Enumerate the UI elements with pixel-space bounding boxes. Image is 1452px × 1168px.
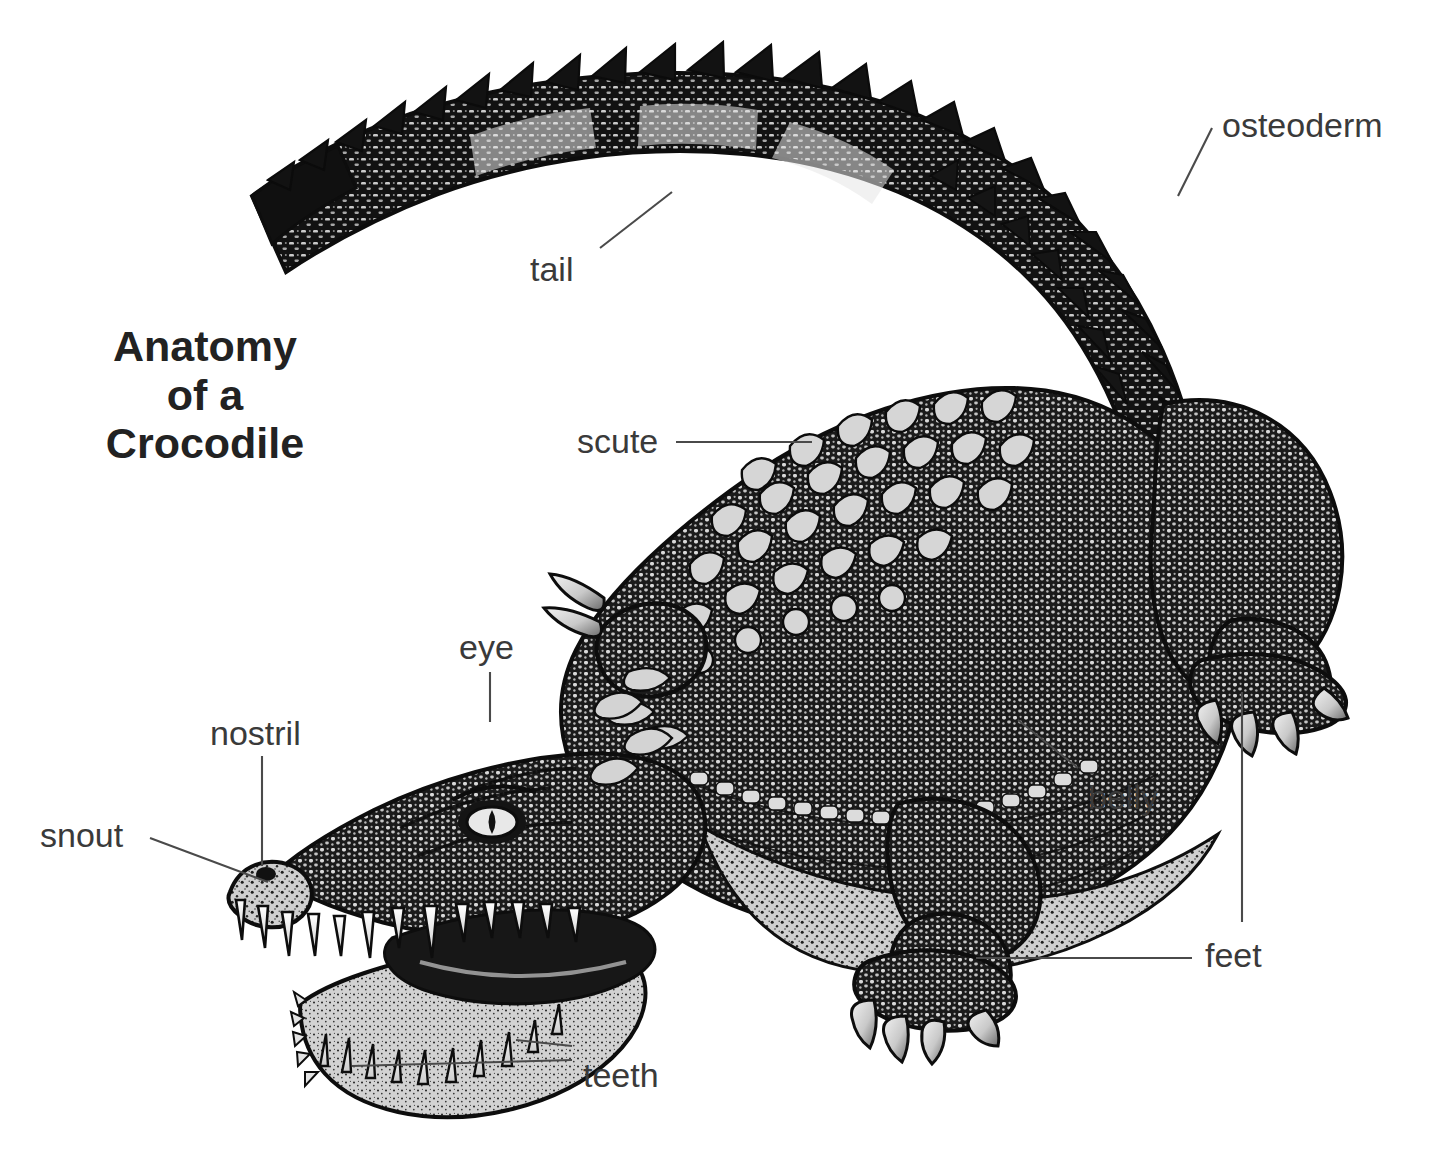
osteoderm-leader xyxy=(1178,128,1212,196)
tail-leader xyxy=(600,192,672,248)
label-tail: tail xyxy=(530,252,573,286)
snout-leader xyxy=(150,838,268,882)
label-belly: belly xyxy=(1088,780,1158,814)
title-line-3: Crocodile xyxy=(70,419,340,468)
page-title: Anatomy of a Crocodile xyxy=(70,322,340,468)
label-snout: snout xyxy=(40,818,123,852)
crocodile-illustration xyxy=(0,0,1452,1168)
label-eye: eye xyxy=(459,630,514,664)
label-teeth: teeth xyxy=(583,1058,659,1092)
anatomy-diagram-canvas: Anatomy of a Crocodile osteodermtailscut… xyxy=(0,0,1452,1168)
label-scute: scute xyxy=(577,424,658,458)
far-claws xyxy=(544,574,604,637)
title-line-1: Anatomy xyxy=(70,322,340,371)
label-feet: feet xyxy=(1205,938,1262,972)
label-osteoderm: osteoderm xyxy=(1222,108,1383,142)
title-line-2: of a xyxy=(70,371,340,420)
label-nostril: nostril xyxy=(210,716,301,750)
head-group xyxy=(228,692,705,1117)
